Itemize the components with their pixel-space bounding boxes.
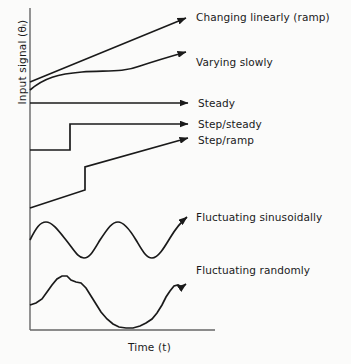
series-step-ramp: [30, 138, 188, 208]
series-changing-linearly-ramp: [30, 18, 186, 82]
series-step-steady: [30, 124, 188, 150]
annotation-fluctuating-randomly: Fluctuating randomly: [196, 264, 310, 276]
x-axis-title: Time (t): [128, 341, 171, 353]
annotation-changing-linearly-ramp: Changing linearly (ramp): [196, 11, 330, 23]
axes-group: [30, 8, 215, 330]
annotation-steady: Steady: [198, 97, 235, 109]
series-fluctuating-randomly: [30, 276, 186, 328]
annotation-fluctuating-sinusoidally: Fluctuating sinusoidally: [196, 211, 322, 223]
series-varying-slowly: [30, 52, 186, 90]
chart-canvas: [0, 0, 351, 364]
annotation-varying-slowly: Varying slowly: [196, 56, 273, 68]
annotation-step-ramp: Step/ramp: [198, 134, 254, 146]
annotation-step-steady: Step/steady: [198, 118, 262, 130]
signal-types-figure: Input signal (θᵢ) Time (t) Changing line…: [0, 0, 351, 364]
y-axis-title: Input signal (θᵢ): [16, 2, 28, 122]
series-fluctuating-sinusoidally: [30, 217, 187, 258]
